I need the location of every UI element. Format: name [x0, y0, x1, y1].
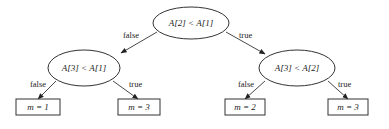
node-right-label: A[3] < A[2] — [274, 63, 320, 73]
edge-label-false: false — [238, 79, 254, 89]
edge-right-to-leaf-m3: true — [328, 79, 351, 99]
node-root-label: A[2] < A[1] — [168, 18, 214, 28]
edge-left-to-leaf-m1: false — [30, 79, 56, 99]
edge-label-false: false — [123, 30, 139, 40]
leaf-m3-right-label: m = 3 — [337, 102, 359, 112]
node-left: A[3] < A[1] — [48, 50, 120, 86]
edge-root-to-left: false — [121, 30, 157, 53]
leaf-m1-label: m = 1 — [27, 102, 49, 112]
edge-label-true: true — [239, 30, 252, 40]
leaf-m1: m = 1 — [16, 99, 60, 115]
edge-right-to-leaf-m2: false — [238, 79, 265, 99]
leaf-m3-right: m = 3 — [328, 99, 368, 115]
node-right: A[3] < A[2] — [259, 50, 335, 86]
leaf-m2-label: m = 2 — [234, 102, 256, 112]
edge-left-to-leaf-m3: true — [113, 79, 142, 99]
decision-tree-diagram: false true false true false true A[2] < … — [0, 0, 389, 129]
edge-label-true: true — [338, 79, 351, 89]
edge-label-true: true — [129, 79, 142, 89]
edge-root-to-right: true — [226, 30, 265, 54]
leaf-m2: m = 2 — [225, 99, 265, 115]
edge-label-false: false — [30, 79, 46, 89]
node-left-label: A[3] < A[1] — [61, 63, 107, 73]
leaf-m3-left-label: m = 3 — [128, 102, 150, 112]
leaf-m3-left: m = 3 — [118, 99, 160, 115]
node-root: A[2] < A[1] — [153, 7, 229, 39]
